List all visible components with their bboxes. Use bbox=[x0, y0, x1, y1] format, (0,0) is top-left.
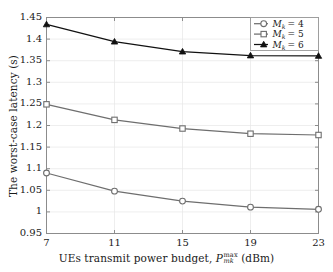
data-point-square bbox=[44, 102, 49, 107]
data-point-circle bbox=[248, 204, 254, 210]
x-tick-label: 19 bbox=[231, 237, 271, 248]
x-tick-label: 7 bbox=[27, 237, 67, 248]
legend-value: = 4 bbox=[288, 19, 304, 29]
y-tick-label: 1.4 bbox=[26, 33, 42, 44]
legend-subscript: k bbox=[282, 44, 286, 52]
data-point-circle bbox=[261, 21, 267, 27]
legend: Mk= 4Mk= 5Mk= 6 bbox=[251, 18, 319, 52]
y-tick-label: 1 bbox=[36, 205, 42, 216]
y-tick-label: 1.35 bbox=[20, 54, 42, 65]
data-point-triangle bbox=[43, 21, 49, 27]
data-point-square bbox=[112, 117, 117, 122]
y-tick-label: 1.05 bbox=[20, 184, 42, 195]
y-axis-title: The worst-case latency (s) bbox=[7, 54, 19, 196]
data-point-square bbox=[248, 131, 253, 136]
y-tick-label: 1.2 bbox=[26, 119, 42, 130]
legend-value: = 5 bbox=[288, 29, 304, 39]
y-tick-label: 1.3 bbox=[26, 76, 42, 87]
data-point-circle bbox=[112, 188, 118, 194]
x-axis-title-prefix: UEs transmit power budget, bbox=[59, 252, 213, 264]
y-tick-label: 1.1 bbox=[26, 162, 42, 173]
x-tick-label: 23 bbox=[299, 237, 333, 248]
data-point-square bbox=[261, 31, 266, 36]
data-point-square bbox=[316, 132, 321, 137]
x-tick-label: 11 bbox=[95, 237, 135, 248]
data-point-circle bbox=[316, 206, 322, 212]
legend-subscript: k bbox=[282, 23, 286, 31]
y-tick-label: 1.15 bbox=[20, 141, 42, 152]
x-axis-title-subscript: mk bbox=[224, 258, 238, 265]
x-tick-label: 15 bbox=[163, 237, 203, 248]
legend-value: = 6 bbox=[288, 40, 304, 50]
x-axis-title-symbol: P bbox=[216, 252, 223, 264]
data-point-circle bbox=[180, 198, 186, 204]
y-tick-label: 1.45 bbox=[20, 11, 42, 22]
legend-subscript: k bbox=[282, 33, 286, 41]
data-point-square bbox=[180, 126, 185, 131]
y-tick-label: 1.25 bbox=[20, 97, 42, 108]
x-axis-title: UEs transmit power budget, Pmaxmk (dBm) bbox=[0, 252, 333, 265]
data-point-circle bbox=[44, 170, 50, 176]
x-axis-title-unit: (dBm) bbox=[241, 252, 274, 264]
chart-canvas: Mk= 4Mk= 5Mk= 6 bbox=[0, 0, 333, 272]
x-axis-title-script-group: maxmk bbox=[224, 252, 238, 265]
chart-figure: Mk= 4Mk= 5Mk= 60.9511.051.11.151.21.251.… bbox=[0, 0, 333, 272]
